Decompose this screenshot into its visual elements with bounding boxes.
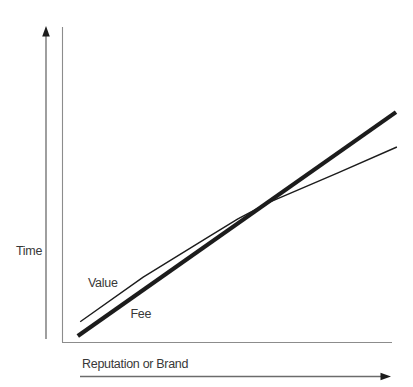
series-lines	[78, 112, 397, 336]
x-axis-label: Reputation or Brand	[82, 357, 189, 371]
series-line-value	[80, 147, 397, 322]
value-series-label: Value	[88, 276, 118, 290]
y-axis-label: Time	[16, 244, 42, 258]
diagram-canvas: Time Value Fee Reputation or Brand	[0, 0, 413, 387]
value-fee-line-diagram: Time Value Fee Reputation or Brand	[0, 0, 413, 387]
fee-series-label: Fee	[131, 307, 152, 321]
y-axis-arrowhead-icon	[42, 26, 50, 37]
series-line-fee	[78, 112, 396, 336]
x-axis-arrowhead-icon	[381, 373, 392, 381]
